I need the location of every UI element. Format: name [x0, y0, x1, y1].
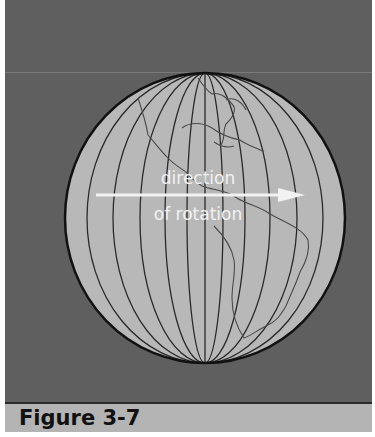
label-direction: direction [161, 168, 236, 188]
caption-bar: Figure 3-7 [5, 402, 372, 432]
figure-caption: Figure 3-7 [19, 406, 140, 430]
globe-diagram: direction of rotation [0, 0, 375, 437]
label-of-rotation: of rotation [154, 204, 242, 224]
